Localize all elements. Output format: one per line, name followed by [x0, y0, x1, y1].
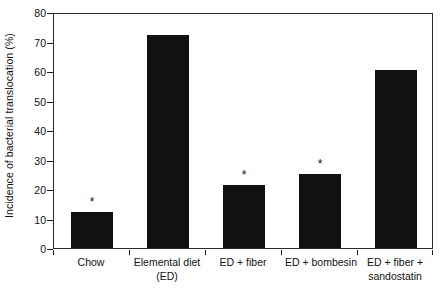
x-tick-label-elemental-diet-line-2: (ED) [129, 270, 205, 284]
bar-ed-fiber-sandostatin [375, 70, 417, 248]
bar-chow [71, 212, 113, 248]
bar-ed-fiber [223, 185, 265, 248]
plot-frame: * * * [53, 13, 433, 249]
bar-elemental-diet [147, 35, 189, 248]
x-tick-mark-1 [129, 250, 130, 255]
x-tick-label-ed-fiber-line-1: ED + fiber [205, 256, 281, 270]
x-tick-label-ed-fiber-sandostatin-line-1: ED + fiber + [357, 256, 433, 270]
x-tick-label-chow-line-1: Chow [53, 256, 129, 270]
x-tick-label-ed-fiber-sandostatin: ED + fiber + sandostatin [357, 256, 433, 283]
bar-slot-ed-bombesin: * [282, 14, 358, 248]
plot-area: * * * [54, 14, 432, 248]
bar-slot-ed-fiber-sandostatin [358, 14, 434, 248]
x-tick-mark-4 [357, 250, 358, 255]
x-tick-mark-5 [432, 250, 433, 255]
x-tick-mark-0 [53, 250, 54, 255]
x-tick-label-elemental-diet: Elemental diet (ED) [129, 256, 205, 283]
y-tick-label-10: 10 [20, 215, 46, 225]
y-tick-label-30: 30 [20, 156, 46, 166]
bar-slot-ed-fiber: * [206, 14, 282, 248]
x-tick-label-ed-fiber: ED + fiber [205, 256, 281, 270]
y-tick-label-50: 50 [20, 97, 46, 107]
bar-slot-chow: * [54, 14, 130, 248]
y-axis-tick-labels: 80 70 60 50 40 30 20 10 0 [18, 0, 46, 293]
significance-star-chow: * [90, 198, 95, 206]
y-tick-label-0: 0 [20, 244, 46, 254]
x-tick-label-chow: Chow [53, 256, 129, 270]
y-tick-label-80: 80 [20, 8, 46, 18]
x-axis-tick-labels: Chow Elemental diet (ED) ED + fiber ED +… [53, 256, 433, 293]
x-tick-label-ed-bombesin-line-1: ED + bombesin [281, 256, 361, 270]
x-tick-mark-3 [281, 250, 282, 255]
significance-star-ed-bombesin: * [318, 160, 323, 168]
x-tick-label-ed-fiber-sandostatin-line-2: sandostatin [357, 270, 433, 284]
x-tick-mark-2 [205, 250, 206, 255]
x-tick-label-elemental-diet-line-1: Elemental diet [129, 256, 205, 270]
bar-slot-elemental-diet [130, 14, 206, 248]
y-tick-label-40: 40 [20, 126, 46, 136]
bar-chart: Incidence of bacterial translocation (%)… [0, 0, 442, 293]
bar-ed-bombesin [299, 174, 341, 248]
significance-star-ed-fiber: * [242, 171, 247, 179]
y-tick-label-20: 20 [20, 185, 46, 195]
y-tick-label-70: 70 [20, 38, 46, 48]
y-tick-label-60: 60 [20, 67, 46, 77]
x-tick-label-ed-bombesin: ED + bombesin [281, 256, 361, 270]
y-axis-title: Incidence of bacterial translocation (%) [2, 1, 16, 250]
